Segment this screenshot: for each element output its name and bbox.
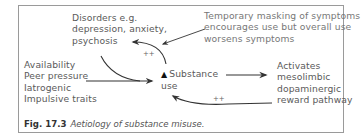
arrow-masking-note — [163, 29, 205, 44]
node-reward-pathway: Activates mesolimbic dopaminergic reward… — [277, 60, 353, 106]
arrow-disorders-merge — [101, 56, 140, 81]
figure-number: Fig. 17.3 — [24, 119, 66, 129]
triangle-marker-icon: ▲ — [161, 70, 167, 79]
figure-title: Aetiology of substance misuse. — [70, 119, 204, 129]
node-risk-factors: Availability Peer pressure Iatrogenic Im… — [24, 59, 97, 105]
edge-label-plus-top: ++ — [143, 50, 155, 58]
node-masking-note: Temporary masking of symptoms encourages… — [204, 10, 360, 44]
edge-label-plus-bottom: ++ — [213, 95, 225, 103]
node-substance-use: ▲Substance use — [161, 68, 218, 92]
figure-caption: Fig. 17.3Aetiology of substance misuse. — [24, 119, 204, 129]
node-disorders: Disorders e.g. depression, anxiety, psyc… — [72, 12, 167, 46]
